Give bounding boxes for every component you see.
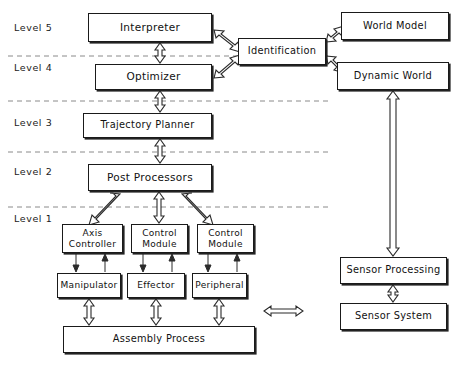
- node-axis-controller-line1: Axis: [83, 228, 103, 238]
- node-assembly-process-label: Assembly Process: [113, 334, 205, 345]
- node-effector-label: Effector: [137, 280, 175, 290]
- arrow-postprocessors-axis: [89, 193, 120, 225]
- node-post-processors-label: Post Processors: [107, 172, 193, 184]
- node-control-module-2[interactable]: Control Module: [197, 224, 254, 253]
- node-effector[interactable]: Effector: [127, 273, 185, 298]
- node-interpreter[interactable]: Interpreter: [88, 13, 212, 42]
- arrow-interpreter-identification: [214, 30, 240, 52]
- arrow-trajectory-postprocessors: [155, 139, 165, 163]
- node-world-model-label: World Model: [363, 21, 427, 32]
- level-label-4: Level 4: [14, 62, 52, 73]
- node-control-module-2-line2: Module: [208, 239, 243, 249]
- node-axis-controller-line2: Controller: [69, 239, 116, 249]
- arrow-assembly-sensor-system: [264, 306, 303, 316]
- level-label-5: Level 5: [14, 22, 52, 33]
- level-label-1: Level 1: [14, 213, 52, 224]
- node-manipulator[interactable]: Manipulator: [57, 273, 121, 298]
- node-control-module-1-line2: Module: [142, 239, 177, 249]
- node-control-module-1-line1: Control: [142, 228, 177, 238]
- node-identification-label: Identification: [248, 46, 316, 57]
- arrow-interpreter-optimizer: [155, 43, 165, 63]
- node-peripheral[interactable]: Peripheral: [192, 273, 247, 298]
- arrow-effector-assembly: [151, 299, 161, 325]
- node-manipulator-label: Manipulator: [61, 280, 118, 290]
- node-trajectory-planner-label: Trajectory Planner: [101, 120, 195, 131]
- arrow-manipulator-assembly: [84, 299, 94, 325]
- node-peripheral-label: Peripheral: [195, 280, 244, 290]
- level-label-2: Level 2: [14, 166, 52, 177]
- node-identification[interactable]: Identification: [238, 38, 326, 65]
- arrow-sensor-processing-dynamic-world: [387, 91, 399, 256]
- node-optimizer[interactable]: Optimizer: [95, 64, 212, 90]
- node-control-module-1[interactable]: Control Module: [131, 224, 188, 253]
- diagram-canvas: Level 5 Level 4 Level 3 Level 2 Level 1 …: [0, 0, 464, 374]
- node-dynamic-world-label: Dynamic World: [354, 71, 432, 82]
- arrow-postprocessors-control-2: [182, 193, 213, 225]
- arrow-optimizer-identification: [214, 55, 240, 78]
- node-sensor-system-label: Sensor System: [355, 311, 432, 322]
- node-sensor-processing-label: Sensor Processing: [346, 265, 440, 276]
- node-sensor-system[interactable]: Sensor System: [340, 303, 447, 330]
- level-label-3: Level 3: [14, 117, 52, 128]
- node-trajectory-planner[interactable]: Trajectory Planner: [83, 113, 212, 138]
- node-sensor-processing[interactable]: Sensor Processing: [340, 257, 447, 284]
- node-interpreter-label: Interpreter: [120, 22, 180, 34]
- arrow-sensor-system-processing: [388, 285, 398, 302]
- node-world-model[interactable]: World Model: [341, 12, 449, 40]
- node-assembly-process[interactable]: Assembly Process: [63, 326, 255, 353]
- node-control-module-2-line1: Control: [208, 228, 243, 238]
- node-dynamic-world[interactable]: Dynamic World: [337, 62, 449, 90]
- node-post-processors[interactable]: Post Processors: [88, 164, 212, 191]
- node-optimizer-label: Optimizer: [126, 71, 180, 83]
- node-axis-controller[interactable]: Axis Controller: [62, 224, 123, 253]
- line-pair-group: [73, 254, 240, 272]
- arrow-peripheral-assembly: [214, 299, 224, 325]
